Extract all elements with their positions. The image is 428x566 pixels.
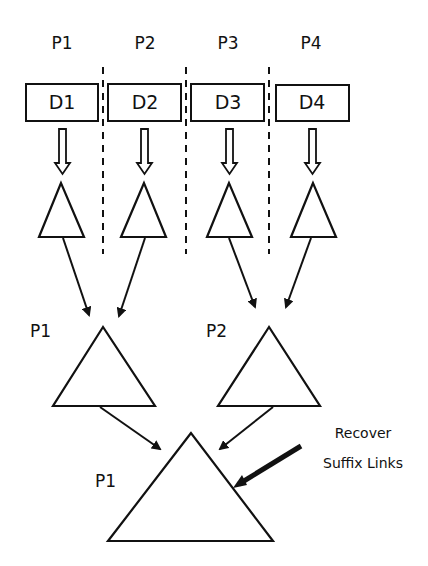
final-tree-triangle xyxy=(108,433,273,541)
final-tree-label-p1: P1 xyxy=(95,471,116,491)
merge-label-p2: P2 xyxy=(206,321,227,341)
svg-text:D3: D3 xyxy=(215,91,242,113)
hollow-down-arrow-icon xyxy=(222,129,237,174)
build-arrows xyxy=(55,129,320,174)
hollow-down-arrow-icon xyxy=(137,129,152,174)
merged-subtrees xyxy=(53,327,320,406)
processor-label-p1: P1 xyxy=(51,33,72,53)
annotation-line-1: Recover xyxy=(335,425,392,441)
subtree-triangle xyxy=(39,183,84,237)
svg-text:D2: D2 xyxy=(132,91,159,113)
data-block-d4: D4 xyxy=(276,85,349,121)
svg-text:D4: D4 xyxy=(299,91,326,113)
subtree-triangle xyxy=(291,183,336,237)
local-subtrees xyxy=(39,183,336,237)
merge-label-p1: P1 xyxy=(30,321,51,341)
hollow-down-arrow-icon xyxy=(305,129,320,174)
parallel-suffix-tree-diagram: P1 P2 P3 P4 D1 D2 D3 D4 xyxy=(0,0,428,566)
data-block-d1: D1 xyxy=(26,84,98,121)
processor-label-p4: P4 xyxy=(300,33,321,53)
processor-label-p2: P2 xyxy=(134,33,155,53)
subtree-triangle xyxy=(207,183,252,237)
annotation-arrowhead-icon xyxy=(233,475,247,488)
processor-label-p3: P3 xyxy=(217,33,238,53)
merged-tree-triangle xyxy=(53,327,155,406)
subtree-triangle xyxy=(121,183,166,237)
merged-tree-triangle xyxy=(218,327,320,406)
hollow-down-arrow-icon xyxy=(55,129,70,174)
data-block-d2: D2 xyxy=(108,84,181,121)
svg-text:D1: D1 xyxy=(49,91,76,113)
annotation-arrow xyxy=(239,446,301,484)
data-block-d3: D3 xyxy=(191,84,264,121)
annotation-line-2: Suffix Links xyxy=(323,455,403,471)
